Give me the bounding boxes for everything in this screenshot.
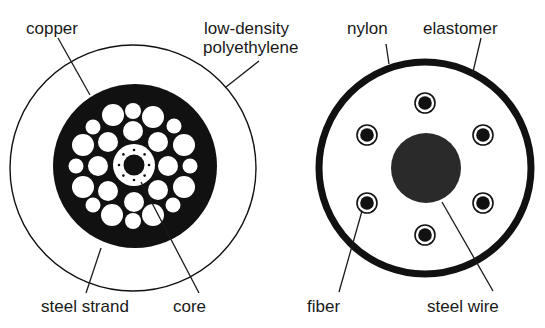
fiber-lower-right (473, 193, 493, 213)
leader-ldpe (226, 61, 259, 87)
fiber-upper-right (473, 125, 493, 145)
fiber-lower-left (357, 193, 377, 213)
right-cable: nylon elastomer fiber steel wire (307, 19, 531, 316)
label-steel-strand: steel strand (41, 297, 129, 316)
leader-nylon (386, 44, 389, 64)
label-steel-wire: steel wire (427, 297, 499, 316)
leader-elastomer (472, 38, 481, 76)
label-ldpe-line2: polyethylene (203, 38, 298, 57)
label-fiber: fiber (307, 297, 340, 316)
steel-wire (391, 133, 461, 203)
label-ldpe-line1: low-density (204, 19, 290, 38)
fiber-top (415, 93, 435, 113)
label-core: core (173, 297, 206, 316)
fiber-bottom (415, 225, 435, 245)
label-nylon: nylon (347, 19, 388, 38)
core (113, 144, 155, 186)
left-cable: copper low-density polyethylene steel st… (10, 19, 298, 316)
fiber-upper-left (357, 125, 377, 145)
cable-cross-section-diagram: copper low-density polyethylene steel st… (0, 0, 545, 328)
label-elastomer: elastomer (423, 19, 498, 38)
label-copper: copper (26, 19, 78, 38)
